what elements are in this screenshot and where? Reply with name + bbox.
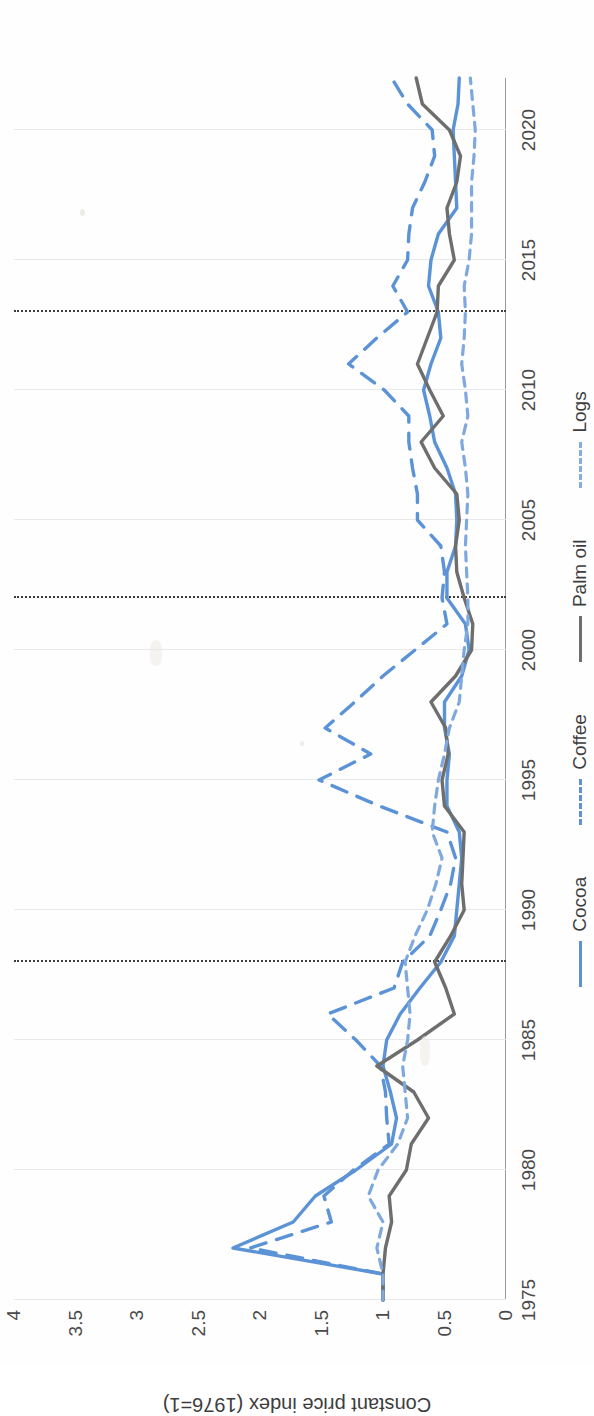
legend-item-coffee[interactable]: Coffee xyxy=(569,714,591,825)
series-line-coffee xyxy=(250,78,455,1300)
y-tick-0: 0 xyxy=(495,1310,517,1321)
x-tick-2000: 2000 xyxy=(518,629,540,671)
legend-item-logs[interactable]: Logs xyxy=(569,391,591,487)
y-tick-3: 3 xyxy=(126,1310,148,1321)
legend-item-palm-oil[interactable]: Palm oil xyxy=(569,540,591,663)
plot-area: 00.511.522.533.54 1975198019851990199520… xyxy=(14,78,506,1300)
series-line-cocoa xyxy=(233,78,469,1300)
y-tick-4: 4 xyxy=(3,1310,25,1321)
scan-smudge xyxy=(420,1036,430,1066)
legend-label: Logs xyxy=(569,391,591,432)
x-tick-1975: 1975 xyxy=(518,1279,540,1321)
legend-label: Palm oil xyxy=(569,540,591,608)
scan-speck xyxy=(300,741,304,746)
x-tick-2005: 2005 xyxy=(518,499,540,541)
x-tick-2015: 2015 xyxy=(518,239,540,281)
y-tick-2: 2 xyxy=(249,1310,271,1321)
x-tick-2010: 2010 xyxy=(518,369,540,411)
legend-item-cocoa[interactable]: Cocoa xyxy=(569,877,591,987)
scan-speck xyxy=(80,209,85,216)
x-tick-2020: 2020 xyxy=(518,109,540,151)
x-tick-1995: 1995 xyxy=(518,759,540,801)
y-tick-2.5: 2.5 xyxy=(188,1310,210,1336)
x-tick-1985: 1985 xyxy=(518,1019,540,1061)
legend-label: Cocoa xyxy=(569,877,591,932)
series-layer xyxy=(14,78,506,1300)
chart-legend: CocoaCoffeePalm oilLogs xyxy=(560,78,594,1300)
x-tick-1990: 1990 xyxy=(518,889,540,931)
y-tick-1: 1 xyxy=(372,1310,394,1321)
legend-swatch-coffee-icon xyxy=(579,779,582,825)
legend-label: Coffee xyxy=(569,714,591,770)
legend-swatch-logs-icon xyxy=(579,442,582,488)
scan-smudge xyxy=(150,640,162,666)
legend-swatch-cocoa-icon xyxy=(579,941,582,987)
y-tick-3.5: 3.5 xyxy=(65,1310,87,1336)
series-line-palm-oil xyxy=(377,78,473,1300)
x-tick-1980: 1980 xyxy=(518,1149,540,1191)
legend-swatch-palm-oil-icon xyxy=(579,616,582,662)
y-axis-label: Constant price index (1976=1) xyxy=(163,1393,432,1416)
y-tick-0.5: 0.5 xyxy=(434,1310,456,1336)
y-tick-1.5: 1.5 xyxy=(311,1310,333,1336)
series-line-logs xyxy=(368,78,475,1300)
